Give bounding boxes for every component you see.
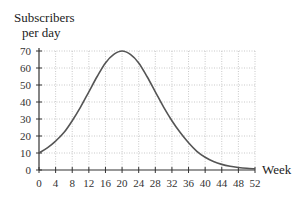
y-tick-label: 60 bbox=[20, 62, 32, 74]
y-tick-label: 70 bbox=[20, 45, 32, 57]
y-tick-label: 30 bbox=[20, 113, 32, 125]
x-tick-label: 20 bbox=[117, 177, 129, 189]
x-tick-label: 52 bbox=[250, 177, 261, 189]
y-tick-label: 50 bbox=[20, 79, 32, 91]
grid-lines bbox=[39, 51, 255, 170]
y-axis-title-line-2: per day bbox=[22, 25, 61, 40]
x-tick-label: 48 bbox=[233, 177, 245, 189]
x-tick-label: 16 bbox=[100, 177, 112, 189]
x-axis-title: Week bbox=[262, 162, 292, 177]
y-axis-title-line-1: Subscribers bbox=[14, 10, 75, 25]
x-tick-label: 32 bbox=[166, 177, 177, 189]
axes bbox=[39, 48, 255, 170]
y-axis-title: Subscribers per day bbox=[14, 10, 75, 40]
line-chart: Subscribers per day 010203040506070 0481… bbox=[0, 0, 300, 200]
x-tick-label: 44 bbox=[216, 177, 228, 189]
y-tick-label: 20 bbox=[20, 130, 32, 142]
y-tick-label: 0 bbox=[26, 164, 32, 176]
x-tick-label: 40 bbox=[200, 177, 212, 189]
x-tick-label: 4 bbox=[53, 177, 59, 189]
y-tick-label: 10 bbox=[20, 147, 32, 159]
y-tick-label: 40 bbox=[20, 96, 32, 108]
x-tick-label: 12 bbox=[83, 177, 94, 189]
x-tick-label: 8 bbox=[69, 177, 75, 189]
data-line bbox=[39, 51, 255, 169]
x-tick-label: 36 bbox=[183, 177, 195, 189]
x-tick-label: 0 bbox=[36, 177, 42, 189]
x-tick-label: 24 bbox=[133, 177, 145, 189]
x-tick-label: 28 bbox=[150, 177, 162, 189]
